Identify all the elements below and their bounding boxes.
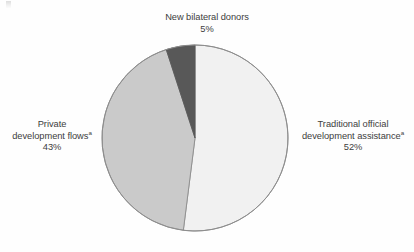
- pie-label-traditional-oda-line1: Traditional official: [292, 119, 414, 131]
- pie-label-traditional-oda-value: 52%: [292, 142, 414, 154]
- pie-label-private-flows-line2: development flowsa: [4, 131, 100, 143]
- pie-label-traditional-oda: Traditional official development assista…: [292, 119, 414, 154]
- footnote-marker-private-flows: a: [88, 128, 91, 135]
- pie-slice-traditional-oda[interactable]: [183, 45, 288, 231]
- pie-label-private-flows-line1: Private: [4, 119, 100, 131]
- pie-label-new-bilateral-donors-value: 5%: [0, 24, 414, 36]
- pie-label-private-flows-line2-text: development flows: [12, 131, 88, 141]
- pie-chart-figure: New bilateral donors 5% Traditional offi…: [0, 0, 414, 252]
- pie-label-private-flows: Private development flowsa 43%: [4, 119, 100, 154]
- pie-label-traditional-oda-line2-text: development assistance: [302, 131, 401, 141]
- pie-label-traditional-oda-line2: development assistancea: [292, 131, 414, 143]
- pie-label-new-bilateral-donors-text: New bilateral donors: [0, 12, 414, 24]
- footnote-marker-traditional-oda: a: [401, 128, 404, 135]
- pie-label-private-flows-value: 43%: [4, 142, 100, 154]
- pie-label-new-bilateral-donors: New bilateral donors 5%: [0, 12, 414, 35]
